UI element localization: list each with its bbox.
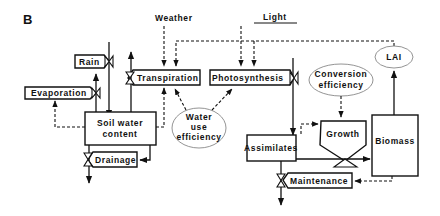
growth-valve-icon bbox=[334, 159, 357, 167]
drainage-label: Drainage bbox=[95, 155, 136, 165]
photosynthesis-label: Photosynthesis bbox=[212, 73, 284, 83]
wue-line-1: Water bbox=[186, 112, 212, 122]
wue-line-2: use bbox=[191, 122, 207, 132]
soil-water-line-2: content bbox=[103, 129, 138, 139]
evaporation-label: Evaporation bbox=[31, 88, 87, 98]
assimilates-to-growth-info bbox=[301, 124, 318, 134]
photosynthesis-valve-icon bbox=[290, 72, 298, 84]
light-label: Light bbox=[263, 12, 287, 22]
lai-to-transpiration bbox=[176, 41, 394, 66]
assimilates-label: Assimilates bbox=[244, 143, 298, 153]
growth-box bbox=[320, 121, 366, 161]
wue-line-3: efficiency bbox=[176, 132, 221, 142]
crop-model-diagram: B Weather Light Rain Evaporation Transpi… bbox=[0, 0, 440, 216]
biomass-label: Biomass bbox=[375, 136, 415, 146]
soil-to-evaporation-info bbox=[55, 101, 85, 127]
lai-label: LAI bbox=[386, 52, 402, 62]
soil-water-line-1: Soil water bbox=[97, 118, 143, 128]
wue-to-photosynthesis bbox=[212, 89, 232, 110]
conversion-line-1: Conversion bbox=[315, 69, 368, 79]
soil-to-drainage-info bbox=[140, 145, 150, 160]
soil-to-transpiration-info bbox=[156, 88, 164, 127]
panel-label: B bbox=[23, 12, 32, 27]
weather-label: Weather bbox=[155, 13, 193, 23]
growth-label: Growth bbox=[326, 129, 359, 139]
maintenance-label: Maintenance bbox=[290, 176, 348, 186]
transpiration-label: Transpiration bbox=[137, 73, 199, 83]
rain-label: Rain bbox=[79, 57, 100, 67]
biomass-to-maintenance-info bbox=[355, 176, 392, 181]
conversion-line-2: efficiency bbox=[318, 80, 363, 90]
wue-to-transpiration bbox=[175, 89, 186, 110]
